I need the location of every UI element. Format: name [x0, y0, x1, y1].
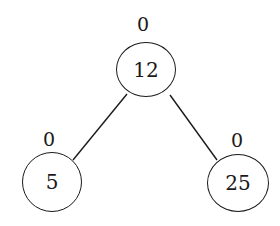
- edge-root-left: [73, 94, 127, 160]
- right-balance-label: 0: [225, 129, 249, 151]
- root-balance-label: 0: [131, 13, 155, 35]
- left-balance-label: 0: [37, 128, 61, 150]
- root-node-value: 12: [133, 58, 158, 82]
- edge-root-right: [170, 95, 217, 160]
- left-node-value: 5: [46, 170, 59, 194]
- right-node-value: 25: [225, 171, 250, 195]
- root-node: 12: [116, 42, 176, 97]
- tree-diagram: 0 12 0 5 0 25: [0, 0, 280, 226]
- left-node: 5: [22, 152, 82, 212]
- right-node: 25: [207, 154, 269, 212]
